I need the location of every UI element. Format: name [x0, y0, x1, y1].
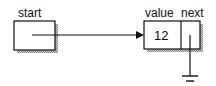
next-field-label: next	[181, 7, 204, 19]
arrowhead-icon	[136, 31, 144, 39]
list-node	[144, 21, 203, 52]
start-pointer-box	[14, 21, 58, 53]
node-value: 12	[154, 29, 168, 42]
start-label: start	[18, 7, 41, 19]
value-field-label: value	[145, 7, 174, 19]
